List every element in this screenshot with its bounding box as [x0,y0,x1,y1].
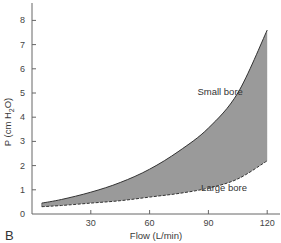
x-tick-label: 30 [86,218,96,228]
y-tick-label: 1 [20,185,25,195]
y-tick-label: 7 [20,40,25,50]
small-bore-label: Small bore [197,86,242,97]
plot-area [42,30,267,207]
panel-label: B [5,228,14,243]
y-tick-label: 2 [20,161,25,171]
x-tick-label: 60 [145,218,155,228]
y-tick-label: 6 [20,64,25,74]
x-ticks: 306090120 [86,210,275,228]
y-tick-label: 0 [20,209,25,219]
y-axis-label: P (cm H2O) [2,98,15,147]
x-tick-label: 90 [203,218,213,228]
x-tick-label: 120 [260,218,275,228]
y-label-end: O) [2,98,13,109]
large-bore-label: Large bore [201,182,247,193]
y-tick-label: 5 [20,88,25,98]
pressure-flow-chart: 012345678 306090120 P (cm H2O) Flow (L/m… [0,0,281,243]
y-tick-label: 4 [20,112,25,122]
y-tick-label: 3 [20,136,25,146]
x-axis-label: Flow (L/min) [130,230,182,241]
y-ticks: 012345678 [20,15,36,219]
shaded-band [42,30,267,207]
y-label-main: P (cm H [2,112,13,146]
y-tick-label: 8 [20,15,25,25]
